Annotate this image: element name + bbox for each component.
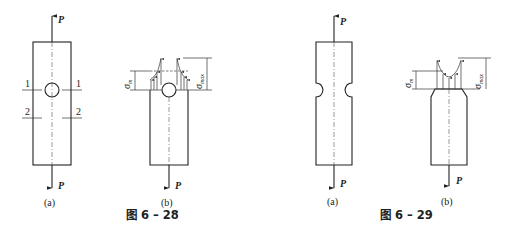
svg-text:σm: σm: [121, 79, 133, 89]
caption-fig-6-29: 图 6 – 29: [380, 208, 433, 222]
force-label-bottom: P: [58, 180, 65, 191]
force-label-bottom: P: [340, 178, 347, 189]
svg-text:σm: σm: [402, 78, 414, 88]
caption-fig-6-28: 图 6 – 28: [126, 208, 179, 222]
diagram-canvas: P P 1 1 2 2 (a) σm: [0, 0, 513, 242]
stress-curve-right: [177, 58, 188, 80]
label-sigma-max: σmax: [472, 74, 484, 89]
force-label-bottom: P: [456, 175, 463, 186]
subfig-label-a: (a): [327, 196, 338, 208]
force-label-top: P: [58, 14, 65, 25]
section-label-2-left: 2: [25, 106, 30, 117]
fig-6-29-a-notched-bar: [316, 16, 352, 188]
svg-text:σmax: σmax: [472, 74, 484, 89]
hole-circle: [162, 83, 176, 97]
fig-6-28-a-plate-with-hole: [22, 16, 82, 188]
label-sigma-max: σmax: [193, 74, 205, 89]
stress-curve-left: [150, 58, 161, 80]
subfig-label-a: (a): [44, 197, 55, 209]
subfig-label-b: (b): [441, 196, 453, 208]
section-label-1-right: 1: [76, 78, 81, 89]
stress-curve: [437, 60, 461, 77]
force-label-top: P: [340, 16, 347, 27]
label-sigma-m: σm: [121, 79, 133, 89]
svg-text:σmax: σmax: [193, 74, 205, 89]
label-sigma-m: σm: [402, 78, 414, 88]
force-label-bottom: P: [175, 180, 182, 191]
section-label-1-left: 1: [25, 78, 30, 89]
section-label-2-right: 2: [76, 106, 81, 117]
